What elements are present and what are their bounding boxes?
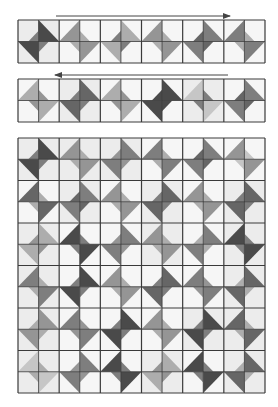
quilt-diagram [0,0,278,407]
assembled-quilt [18,138,265,393]
strip-row-1 [18,20,265,63]
row-strips [18,20,265,122]
strip-row-2 [18,79,265,122]
